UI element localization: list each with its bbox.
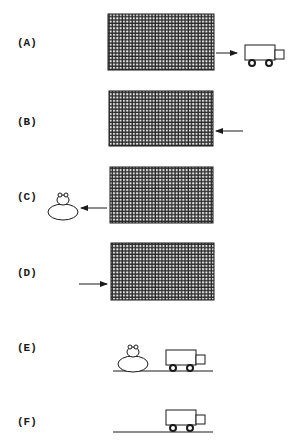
grid-screen-c: [110, 167, 213, 223]
panel-c: [48, 167, 213, 223]
panel-d: [79, 243, 214, 300]
panel-e: [113, 345, 213, 372]
truck-icon: [166, 410, 205, 431]
grid-screen-a: [108, 14, 214, 70]
panel-b: [109, 91, 243, 146]
frog-icon: [118, 345, 148, 372]
truck-icon: [166, 350, 205, 371]
truck-icon: [245, 45, 284, 66]
frog-icon: [48, 193, 78, 220]
panel-a: [108, 14, 284, 70]
diagram-canvas: [0, 0, 299, 445]
grid-screen-d: [111, 243, 214, 300]
grid-screen-b: [109, 91, 213, 146]
panel-f: [113, 410, 213, 432]
